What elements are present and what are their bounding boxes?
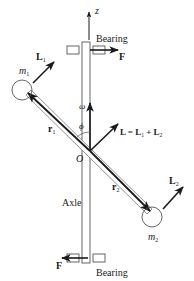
- L-total-vector: [90, 124, 118, 151]
- phi-label: ϕ: [79, 121, 84, 131]
- omega-label: ω: [79, 101, 85, 111]
- L-total-label: L = L1 + L2: [120, 127, 163, 138]
- L2-vector: [163, 187, 183, 209]
- mass-m1: [12, 80, 32, 100]
- L1-vector: [33, 62, 54, 83]
- r2-vector: [90, 151, 150, 211]
- bearing-bottom-label: Bearing: [96, 267, 128, 278]
- mass-m1-label: m1: [19, 65, 29, 77]
- origin-label: O: [76, 153, 83, 164]
- force-top-label: F: [119, 51, 125, 62]
- L2-label: L2: [169, 175, 179, 187]
- force-bottom-label: F: [56, 260, 62, 271]
- axle-label: Axle: [62, 197, 82, 208]
- z-axis-label: z: [94, 5, 99, 16]
- L1-label: L1: [36, 51, 46, 63]
- r1-label: r1: [48, 123, 55, 135]
- bearing-top-left: [67, 46, 79, 54]
- bearing-top-label: Bearing: [96, 33, 128, 44]
- bearing-bottom-right: [93, 254, 105, 262]
- mass-m2-label: m2: [148, 231, 158, 243]
- mass-m2: [142, 207, 162, 227]
- rotating-dumbbell-diagram: z Bearing F Bearing F m1 m2 L1 L2 ω L = …: [0, 0, 194, 281]
